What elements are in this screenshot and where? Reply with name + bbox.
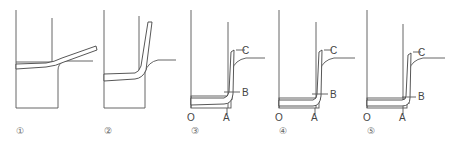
label-a-3: A: [223, 112, 230, 123]
panel-3: [191, 10, 265, 114]
label-o-5: O: [363, 112, 371, 123]
label-c-3: C: [242, 45, 249, 56]
label-a-5: A: [399, 112, 406, 123]
label-b-4: B: [330, 89, 337, 100]
label-o-4: O: [275, 112, 283, 123]
step-label-1: ①: [16, 126, 24, 136]
label-b-5: B: [418, 91, 425, 102]
step-label-2: ②: [104, 126, 112, 136]
panel-5: [367, 10, 445, 114]
step-label-3: ③: [191, 126, 199, 136]
step-label-4: ④: [279, 126, 287, 136]
label-c-5: C: [418, 47, 425, 58]
panel-4: [279, 10, 355, 114]
step-label-5: ⑤: [367, 126, 375, 136]
label-o-3: O: [187, 112, 195, 123]
label-a-4: A: [311, 112, 318, 123]
label-c-4: C: [330, 45, 337, 56]
panel-1: [16, 10, 97, 108]
panel-2: [104, 10, 176, 108]
bending-sequence-diagram: ① ② C B O A ③ C B O A ④: [0, 0, 460, 147]
label-b-3: B: [242, 87, 249, 98]
